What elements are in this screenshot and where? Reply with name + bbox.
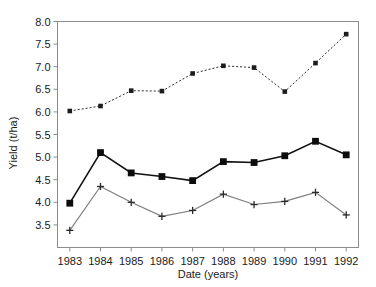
- x-tick-label: 1987: [180, 255, 204, 267]
- data-point-marker: [281, 152, 288, 159]
- data-point-marker: [220, 158, 227, 165]
- data-point-marker: [66, 200, 73, 207]
- y-tick-label: 3.5: [35, 219, 50, 231]
- y-tick-label: 5.0: [35, 151, 50, 163]
- data-point-marker: [160, 89, 165, 94]
- data-point-marker: [97, 149, 104, 156]
- chart-container: 3.54.04.55.05.56.06.57.07.58.0 198319841…: [0, 0, 376, 287]
- x-axis-title: Date (years): [178, 268, 239, 280]
- x-tick-label: 1988: [211, 255, 235, 267]
- y-tick-label: 6.5: [35, 83, 50, 95]
- data-point-marker: [343, 151, 350, 158]
- data-point-marker: [313, 61, 318, 66]
- data-point-marker: [221, 64, 226, 69]
- y-tick-label: 7.5: [35, 38, 50, 50]
- data-point-marker: [98, 104, 103, 109]
- yield-line-chart: 3.54.04.55.05.56.06.57.07.58.0 198319841…: [0, 0, 376, 287]
- data-point-marker: [67, 109, 72, 114]
- x-tick-label: 1986: [150, 255, 174, 267]
- x-tick-label: 1984: [88, 255, 112, 267]
- data-point-marker: [344, 32, 349, 37]
- data-point-marker: [189, 177, 196, 184]
- x-tick-label: 1990: [273, 255, 297, 267]
- data-point-marker: [128, 170, 135, 177]
- data-point-marker: [252, 65, 257, 70]
- y-tick-label: 4.5: [35, 174, 50, 186]
- data-point-marker: [129, 88, 134, 93]
- y-tick-label: 8.0: [35, 16, 50, 28]
- x-tick-label: 1992: [334, 255, 358, 267]
- y-tick-label: 7.0: [35, 61, 50, 73]
- data-point-marker: [312, 138, 319, 145]
- x-tick-label: 1985: [119, 255, 143, 267]
- x-tick-label: 1983: [58, 255, 82, 267]
- x-tick-label: 1989: [242, 255, 266, 267]
- data-point-marker: [159, 173, 166, 180]
- y-tick-label: 5.5: [35, 129, 50, 141]
- y-axis-title: Yield (t/ha): [7, 117, 19, 170]
- y-tick-label: 6.0: [35, 106, 50, 118]
- y-tick-label: 4.0: [35, 196, 50, 208]
- x-tick-label: 1991: [303, 255, 327, 267]
- data-point-marker: [251, 159, 258, 166]
- data-point-marker: [282, 89, 287, 94]
- data-point-marker: [190, 71, 195, 76]
